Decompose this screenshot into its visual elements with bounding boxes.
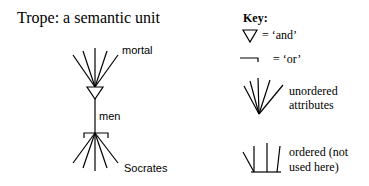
label-socrates: Socrates — [124, 162, 167, 174]
key-ordered-label-2: used here) — [289, 160, 339, 175]
label-mortal: mortal — [122, 44, 153, 56]
key-ordered-fan-icon — [243, 143, 281, 172]
key-unordered-label-2: attributes — [289, 98, 334, 113]
key-unordered-label-1: unordered — [289, 84, 338, 99]
key-and-label: = ‘and’ — [262, 28, 297, 43]
key-or-label: = ‘or’ — [273, 52, 301, 67]
key-heading: Key: — [243, 11, 268, 26]
page-title: Trope: a semantic unit — [17, 9, 160, 27]
label-men: men — [99, 110, 120, 122]
bottom-fan-icon — [73, 133, 118, 171]
top-fan-icon — [73, 48, 118, 87]
key-ordered-label-1: ordered (not — [289, 145, 348, 160]
key-and-triangle-icon — [243, 30, 257, 42]
key-or-bracket-icon — [240, 58, 258, 62]
and-triangle-icon — [87, 87, 103, 99]
key-unordered-fan-icon — [244, 78, 283, 114]
